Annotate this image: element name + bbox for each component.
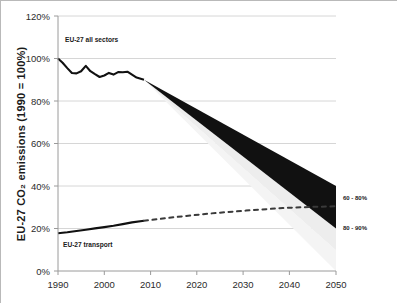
y-tick-label: 60% <box>31 138 51 149</box>
y-tick-label: 20% <box>31 223 51 234</box>
reduction-range-80-90-label: 80 - 90% <box>343 225 368 231</box>
y-tick-label: 40% <box>31 181 51 192</box>
eu27-transport-label: EU-27 transport <box>63 241 113 249</box>
y-tick-label: 100% <box>26 53 51 64</box>
y-axis-title: EU-27 CO₂ emissions (1990 = 100%) <box>15 47 27 242</box>
x-tick-label: 2030 <box>233 279 254 290</box>
x-tick-label: 2050 <box>325 279 346 290</box>
emissions-projection-chart: 120% 100% 80% 60% 40% 20% 0% 1990 2000 2… <box>1 1 397 303</box>
x-tick-label: 2040 <box>279 279 300 290</box>
chart-frame: 120% 100% 80% 60% 40% 20% 0% 1990 2000 2… <box>0 0 397 303</box>
x-tick-label: 1990 <box>47 279 68 290</box>
y-tick-label: 120% <box>26 11 51 22</box>
x-tick-label: 2000 <box>94 279 115 290</box>
y-tick-label: 0% <box>36 266 50 277</box>
eu27-all-sectors-label: EU-27 all sectors <box>65 36 118 43</box>
chart-background <box>1 1 397 303</box>
x-tick-label: 2020 <box>186 279 207 290</box>
y-tick-label: 80% <box>31 96 51 107</box>
x-tick-label: 2010 <box>140 279 161 290</box>
reduction-range-60-80-label: 60 - 80% <box>343 195 368 201</box>
